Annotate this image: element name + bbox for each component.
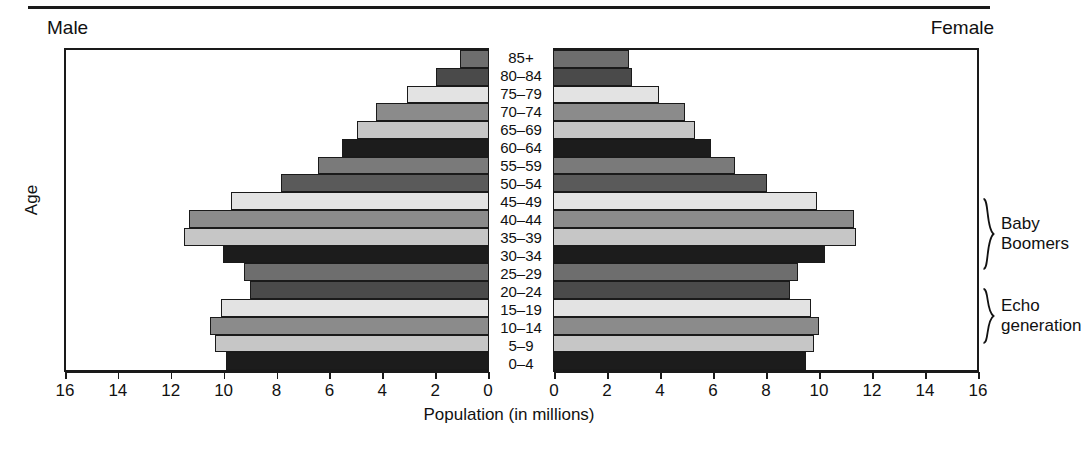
female-bar-70-74 <box>553 103 685 121</box>
bar-row <box>555 246 977 264</box>
female-bar-rows <box>555 50 977 370</box>
x-axis-tick <box>607 372 609 379</box>
x-axis-tick <box>713 372 715 379</box>
female-bar-85+ <box>553 50 629 68</box>
male-bar-35-39 <box>184 228 489 246</box>
age-group-label: 35–39 <box>489 228 553 246</box>
male-bar-40-44 <box>189 210 489 228</box>
bar-row <box>555 281 977 299</box>
bar-row <box>555 335 977 353</box>
x-axis-tick-label: 14 <box>905 381 945 401</box>
age-group-label: 65–69 <box>489 120 553 138</box>
female-bar-0-4 <box>553 352 806 370</box>
x-axis-tick-label: 2 <box>587 381 627 401</box>
female-bar-20-24 <box>553 281 790 299</box>
x-axis-tick <box>171 372 173 379</box>
age-group-labels: 85+80–8475–7970–7465–6960–6455–5950–5445… <box>489 48 553 372</box>
x-axis-tick-label: 2 <box>415 381 455 401</box>
x-axis-tick <box>118 372 120 379</box>
bar-row <box>555 139 977 157</box>
x-axis-tick <box>65 372 67 379</box>
male-bar-55-59 <box>318 157 489 175</box>
female-bar-60-64 <box>553 139 711 157</box>
bar-row <box>66 103 487 121</box>
bar-row <box>555 174 977 192</box>
female-bar-55-59 <box>553 157 735 175</box>
x-axis-tick-label: 8 <box>746 381 786 401</box>
bar-row <box>555 192 977 210</box>
female-bar-45-49 <box>553 192 817 210</box>
age-group-label: 0–4 <box>489 354 553 372</box>
bar-row <box>555 299 977 317</box>
age-group-label: 45–49 <box>489 192 553 210</box>
bar-row <box>555 228 977 246</box>
bar-row <box>555 103 977 121</box>
female-bar-80-84 <box>553 68 632 86</box>
male-bar-15-19 <box>221 299 489 317</box>
bar-row <box>555 68 977 86</box>
y-axis-title: Age <box>22 180 42 220</box>
bar-row <box>66 281 487 299</box>
male-plot-panel <box>64 48 489 372</box>
bar-row <box>66 210 487 228</box>
x-axis-tick <box>819 372 821 379</box>
bar-row <box>66 246 487 264</box>
x-axis-tick <box>554 372 556 379</box>
male-bar-75-79 <box>407 86 489 104</box>
male-bar-50-54 <box>281 174 489 192</box>
age-group-label: 80–84 <box>489 66 553 84</box>
bar-row <box>555 317 977 335</box>
female-bar-35-39 <box>553 228 856 246</box>
age-group-label: 30–34 <box>489 246 553 264</box>
female-bar-50-54 <box>553 174 767 192</box>
male-bar-65-69 <box>357 121 489 139</box>
bar-row <box>66 317 487 335</box>
bar-row <box>555 263 977 281</box>
brace-icon <box>982 198 995 270</box>
annotation-line-2: Boomers <box>1001 234 1069 254</box>
x-axis-tick-label: 6 <box>693 381 733 401</box>
x-axis-tick <box>329 372 331 379</box>
x-axis-tick-label: 10 <box>799 381 839 401</box>
bar-row <box>66 86 487 104</box>
x-axis-tick <box>435 372 437 379</box>
x-axis-title: Population (in millions) <box>0 405 1018 425</box>
x-axis-tick <box>382 372 384 379</box>
female-bar-75-79 <box>553 86 659 104</box>
male-bar-45-49 <box>231 192 489 210</box>
x-axis-tick-label: 6 <box>309 381 349 401</box>
annotation-line-1: Echo <box>1001 296 1081 316</box>
x-axis-tick <box>925 372 927 379</box>
x-axis-tick-label: 10 <box>204 381 244 401</box>
annotation-line-2: generation <box>1001 316 1081 336</box>
bar-row <box>555 157 977 175</box>
male-bar-25-29 <box>244 263 489 281</box>
age-group-label: 70–74 <box>489 102 553 120</box>
bar-row <box>555 210 977 228</box>
bar-row <box>66 335 487 353</box>
age-group-label: 85+ <box>489 48 553 66</box>
x-axis-tick-label: 12 <box>852 381 892 401</box>
x-axis-tick <box>660 372 662 379</box>
age-group-label: 25–29 <box>489 264 553 282</box>
x-axis-tick-label: 8 <box>257 381 297 401</box>
bar-row <box>66 50 487 68</box>
female-bar-30-34 <box>553 246 825 264</box>
x-axis-tick-label: 0 <box>468 381 508 401</box>
male-bar-0-4 <box>226 352 489 370</box>
male-side-caption: Male <box>47 17 88 39</box>
x-axis-tick-label: 14 <box>98 381 138 401</box>
bar-row <box>555 86 977 104</box>
bar-row <box>66 192 487 210</box>
age-group-label: 60–64 <box>489 138 553 156</box>
bar-row <box>555 121 977 139</box>
bar-row <box>66 352 487 370</box>
annotation-baby-boomers-text: Baby Boomers <box>1001 214 1069 254</box>
annotation-echo-generation-text: Echo generation <box>1001 296 1081 336</box>
male-bar-70-74 <box>376 103 489 121</box>
bar-row <box>66 157 487 175</box>
top-divider-rule <box>28 6 990 9</box>
bar-row <box>555 50 977 68</box>
x-axis-tick-label: 4 <box>640 381 680 401</box>
x-axis-tick <box>872 372 874 379</box>
